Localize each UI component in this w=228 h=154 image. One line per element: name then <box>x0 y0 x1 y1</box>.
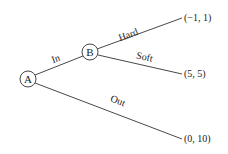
game-tree-svg: A B In Hard Soft Out (−1, 1) (5, 5) (0, … <box>0 0 228 154</box>
edge-label-in: In <box>50 52 62 65</box>
node-a-label: A <box>24 73 32 85</box>
edge-label-hard: Hard <box>117 26 140 43</box>
node-b-label: B <box>86 46 93 58</box>
payoff-hard: (−1, 1) <box>184 12 211 24</box>
payoff-out: (0, 10) <box>184 133 211 145</box>
node-a: A <box>20 71 36 87</box>
node-b: B <box>82 44 98 60</box>
payoff-soft: (5, 5) <box>184 68 206 80</box>
edge-label-out: Out <box>109 93 127 109</box>
edge-hard <box>97 18 182 49</box>
game-tree-diagram: A B In Hard Soft Out (−1, 1) (5, 5) (0, … <box>0 0 228 154</box>
edge-out <box>35 83 182 139</box>
edge-label-soft: Soft <box>135 49 154 64</box>
